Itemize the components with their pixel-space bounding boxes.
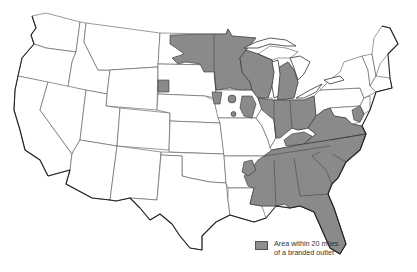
state-montana xyxy=(84,23,160,70)
shade-iowa-patch-west xyxy=(212,92,222,104)
state-maine xyxy=(372,26,398,76)
shade-iowa-patch-small xyxy=(231,112,236,117)
legend-swatch xyxy=(255,241,268,250)
state-new-mexico xyxy=(110,146,161,201)
state-kansas xyxy=(169,121,224,154)
shade-iowa-patch-mid xyxy=(228,95,236,103)
map-legend: Area within 20 miles of a branded outlet xyxy=(255,240,338,257)
legend-line-2: of a branded outlet xyxy=(274,249,338,258)
legend-label: Area within 20 miles of a branded outlet xyxy=(274,240,338,257)
shade-south-dakota-patch xyxy=(158,80,169,92)
state-colorado xyxy=(117,108,170,150)
us-map xyxy=(0,0,417,272)
state-wyoming xyxy=(106,67,158,110)
